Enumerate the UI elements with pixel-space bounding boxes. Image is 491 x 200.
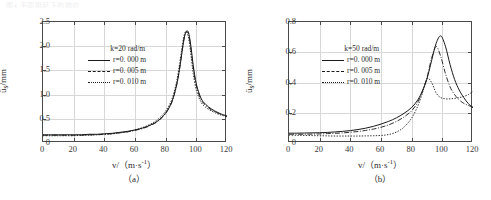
x-tick-label: 80 — [160, 144, 169, 154]
legend-line-dashdot-icon — [88, 68, 110, 74]
figure-sheet: 图4 不同阻尼下的响应 — [0, 0, 491, 200]
y-tick-label: 2.0 — [39, 40, 50, 50]
x-tick-label: 0 — [40, 144, 44, 154]
legend-a-entry-1: r=0. 005 m — [88, 66, 146, 77]
legend-line-dotted-icon — [322, 79, 344, 85]
y-tick-label: 0.4 — [285, 77, 296, 87]
y-tick-label: 0.6 — [285, 46, 296, 56]
legend-b-label-0: r=0. 000 m — [347, 55, 380, 66]
y-tick-label: 0.2 — [285, 107, 296, 117]
y-tick-label: 0 — [292, 137, 296, 147]
x-tick-label: 100 — [435, 144, 448, 154]
legend-b-entry-0: r=0. 000 m — [322, 55, 380, 66]
x-tick-label: 20 — [68, 144, 77, 154]
y-tick-label: 0.8 — [285, 16, 296, 26]
legend-b-entry-1: r=0. 005 m — [322, 66, 380, 77]
legend-b-title: k=50 rad/m — [322, 44, 380, 55]
legend-a-entry-2: r=0. 010 m — [88, 77, 146, 88]
x-tick-label: 120 — [466, 144, 479, 154]
x-tick-label: 60 — [130, 144, 139, 154]
legend-a-label-2: r=0. 010 m — [113, 77, 146, 88]
x-tick-label: 60 — [376, 144, 385, 154]
y-tick-label: 0 — [46, 137, 50, 147]
legend-line-dashdot-icon — [322, 68, 344, 74]
legend-b-label-1: r=0. 005 m — [347, 66, 380, 77]
legend-a: k=20 rad/m r=0. 000 m r=0. 005 m r=0. 01… — [88, 44, 146, 88]
y-axis-title-b: üs/mm — [244, 69, 257, 93]
legend-line-dotted-icon — [88, 79, 110, 85]
x-tick-label: 100 — [189, 144, 202, 154]
y-tick-label: 0.5 — [39, 113, 50, 123]
x-tick-label: 120 — [220, 144, 233, 154]
legend-a-entry-0: r=0. 000 m — [88, 55, 146, 66]
curve-b-r0000 — [289, 36, 473, 133]
y-tick-label: 1.5 — [39, 64, 50, 74]
legend-b-label-2: r=0. 010 m — [347, 77, 380, 88]
x-tick-label: 20 — [314, 144, 323, 154]
legend-line-solid-icon — [88, 57, 110, 63]
legend-a-title: k=20 rad/m — [88, 44, 146, 55]
legend-a-label-0: r=0. 000 m — [113, 55, 146, 66]
y-tick-label: 1.0 — [39, 89, 50, 99]
x-tick-label: 0 — [286, 144, 290, 154]
x-axis-title-b: v/（m·s-1） — [288, 158, 472, 171]
x-tick-label: 40 — [345, 144, 354, 154]
figure-a: k=20 rad/m r=0. 000 m r=0. 005 m r=0. 01… — [0, 0, 245, 200]
figure-b: k=50 rad/m r=0. 000 m r=0. 005 m r=0. 01… — [246, 0, 491, 200]
legend-b-entry-2: r=0. 010 m — [322, 77, 380, 88]
legend-a-label-1: r=0. 005 m — [113, 66, 146, 77]
curve-b-r0005 — [289, 46, 473, 134]
x-tick-label: 80 — [406, 144, 415, 154]
x-axis-title-a: v/（m·s-1） — [42, 158, 226, 171]
curve-group-b — [289, 22, 473, 143]
x-tick-label: 40 — [99, 144, 108, 154]
figure-a-caption: （a） — [42, 172, 226, 185]
y-tick-label: 2.5 — [39, 16, 50, 26]
legend-b: k=50 rad/m r=0. 000 m r=0. 005 m r=0. 01… — [322, 44, 380, 88]
legend-line-solid-icon — [322, 57, 344, 63]
y-axis-title-a: üs/mm — [0, 69, 10, 93]
figure-b-caption: （b） — [288, 172, 472, 185]
